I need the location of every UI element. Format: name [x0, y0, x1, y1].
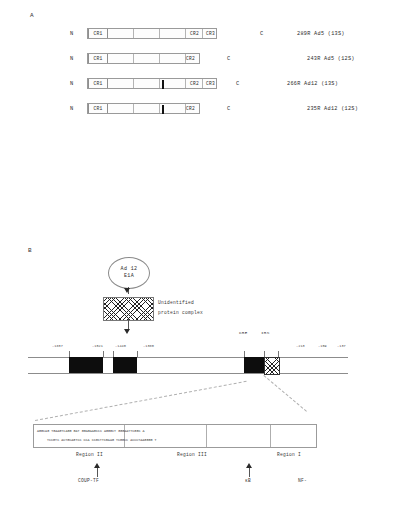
- spacer-segment: [108, 79, 134, 88]
- arrow-down-icon: [124, 288, 130, 293]
- spacer-segment: [134, 79, 160, 88]
- ad12-e1a-line1: Ad 12: [120, 266, 137, 274]
- panel-a-row: N CR1 CR2 CR3 C 266R Ad12 (13S): [60, 78, 360, 90]
- cr3-domain: CR3: [203, 29, 218, 38]
- cr1-domain: CR1: [88, 54, 108, 63]
- factor-label-kappa-b: κB: [245, 478, 251, 483]
- coordinate-tick: [103, 351, 104, 357]
- n-terminus-label: N: [70, 56, 73, 62]
- expansion-guide-line: [263, 375, 307, 412]
- n-terminus-label: N: [70, 106, 73, 112]
- sequence-detail-box: [33, 424, 317, 448]
- e1a-protein-bar: CR1 CR2: [87, 103, 200, 114]
- arrow-down-icon: [124, 329, 130, 334]
- region-label-i: Region I: [277, 452, 301, 457]
- coordinate-label: -137: [337, 344, 346, 348]
- n-terminus-label: N: [70, 31, 73, 37]
- cr1-domain: CR1: [88, 29, 108, 38]
- ad12-e1a-node: Ad 12 E1A: [108, 257, 150, 289]
- region-label-iii: Region III: [177, 452, 207, 457]
- coordinate-label: -1440: [115, 344, 126, 348]
- sequence-divider: [270, 425, 271, 447]
- cre-element-label: CRE: [239, 330, 248, 335]
- factor-label-coup-tf: COUP-TF: [78, 478, 99, 483]
- coordinate-label: -213: [296, 344, 305, 348]
- protein-identity-label: 289R Ad5 (13S): [297, 31, 345, 37]
- cr2-segment: [186, 29, 203, 38]
- coordinate-label: -1380: [143, 344, 154, 348]
- cr1-domain: CR1: [88, 104, 108, 113]
- c-terminus-label: C: [227, 56, 230, 62]
- unidentified-protein-complex-box: [103, 297, 154, 321]
- protein-identity-label: 266R Ad12 (13S): [287, 81, 338, 87]
- coordinate-tick: [113, 351, 114, 357]
- c-terminus-label: C: [236, 81, 239, 87]
- panel-a-row: N CR1 CR2 C 243R Ad5 (12S): [60, 53, 360, 65]
- irs-box: [264, 357, 280, 375]
- factor-connector: [249, 468, 250, 477]
- cr3-domain: CR3: [203, 79, 218, 88]
- e1a-protein-bar: CR1 CR2 CR3: [87, 78, 217, 89]
- promoter-axis-bottom: [28, 373, 348, 374]
- spacer-segment: [160, 29, 186, 38]
- coordinate-tick: [264, 351, 265, 357]
- regulatory-element-box: [113, 357, 137, 373]
- protein-identity-label: 243R Ad5 (12S): [307, 56, 355, 62]
- e1a-protein-bar: CR1 CR2: [87, 53, 200, 64]
- c-terminus-label: C: [260, 31, 263, 37]
- coordinate-tick: [278, 351, 279, 357]
- coordinate-tick: [244, 351, 245, 357]
- sequence-divider: [206, 425, 207, 447]
- coordinate-tick: [69, 351, 70, 357]
- coordinate-tick: [137, 351, 138, 357]
- spacer-segment: [134, 29, 160, 38]
- sequence-strand-bottom: TCCGTC ACTGCAGTCC CCA CCGCTTCGAAG TCGGCC…: [47, 438, 157, 442]
- expansion-guide-line: [35, 381, 247, 421]
- coordinate-label: -1521: [92, 344, 103, 348]
- panel-b-letter: B: [28, 247, 32, 254]
- cre-box: [244, 357, 264, 373]
- panel-a-row: N CR1 CR2 C 235R Ad12 (12S): [60, 103, 360, 115]
- factor-label-nf: NF-: [298, 478, 307, 483]
- spacer-segment: [160, 79, 186, 88]
- cr2-domain: CR2: [182, 104, 199, 113]
- c-terminus-label: C: [227, 106, 230, 112]
- coordinate-label: -159: [318, 344, 327, 348]
- n-terminus-label: N: [70, 81, 73, 87]
- cr2-domain: CR2: [182, 54, 199, 63]
- irs-element-label: IRS: [261, 330, 270, 335]
- panel-a-letter: A: [30, 12, 34, 19]
- spacer-segment: [108, 29, 134, 38]
- sequence-strand-top: AGGCAG TGAAGTCAGG GAT GGAGAAGCCC AGGGCT …: [37, 429, 145, 433]
- spacer-segment: [134, 54, 160, 63]
- coordinate-label: -1837: [52, 344, 63, 348]
- complex-label-line1: Unidentified: [158, 300, 194, 305]
- regulatory-element-box: [69, 357, 103, 373]
- e1a-protein-bar: CR1 CR2 CR3: [87, 28, 217, 39]
- complex-label-line2: protein complex: [158, 310, 203, 315]
- region-label-ii: Region II: [76, 452, 103, 457]
- cr1-domain: CR1: [88, 79, 108, 88]
- spacer-segment: [108, 104, 134, 113]
- figure-canvas: A N CR1 CR2 CR3 C 289R Ad5 (13S) N CR1 C…: [0, 0, 403, 516]
- panel-a-row: N CR1 CR2 CR3 C 289R Ad5 (13S): [60, 28, 360, 40]
- protein-identity-label: 235R Ad12 (12S): [307, 106, 358, 112]
- factor-connector: [97, 468, 98, 477]
- cr2-segment: [186, 79, 203, 88]
- ad12-e1a-line2: E1A: [124, 273, 134, 281]
- spacer-segment: [134, 104, 160, 113]
- spacer-segment: [108, 54, 134, 63]
